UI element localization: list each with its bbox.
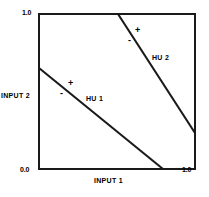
hu2-boundary-line — [118, 14, 195, 133]
y-axis-label: INPUT 2 — [1, 92, 30, 99]
boundary-lines-layer — [0, 0, 209, 197]
hu1-positive-sign: + — [68, 79, 73, 88]
origin-tick-label: 0.0 — [20, 166, 29, 173]
hu1-negative-sign: - — [60, 89, 63, 98]
y-axis-max-tick-label: 1.0 — [22, 9, 31, 16]
hu1-label: HU 1 — [86, 95, 103, 102]
hu1-boundary-line — [39, 68, 163, 169]
hu2-positive-sign: + — [135, 26, 140, 35]
decision-boundary-figure: 1.0 0.0 1.0 INPUT 1 INPUT 2 + - HU 1 + -… — [0, 0, 209, 197]
x-axis-max-tick-label: 1.0 — [182, 166, 191, 173]
x-axis-label: INPUT 1 — [94, 177, 123, 184]
hu2-label: HU 2 — [152, 54, 169, 61]
hu2-negative-sign: - — [128, 36, 131, 45]
